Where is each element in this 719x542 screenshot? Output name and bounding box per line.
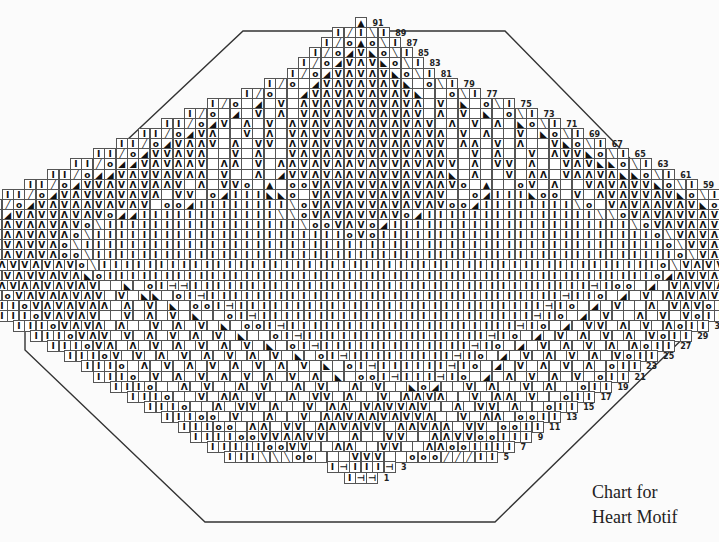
chart-cell: ⊣	[384, 461, 396, 473]
chart-cell: I	[617, 371, 629, 383]
chart-cell: I	[714, 310, 719, 322]
row-number-label: 5	[504, 453, 510, 462]
chart-cell: I	[235, 451, 247, 463]
row-number-label: 3	[401, 463, 407, 472]
chart-cell: ╲	[258, 451, 270, 463]
row-number-label: 15	[583, 403, 594, 412]
chart-cell: I	[344, 472, 356, 484]
chart-cell: I	[13, 320, 25, 332]
chart-cell: I	[190, 431, 202, 443]
chart-cell: I	[697, 320, 709, 332]
chart-cell	[395, 451, 407, 463]
row-number-label: 1	[384, 474, 390, 483]
chart-title-line1: Chart for	[592, 480, 677, 505]
chart-cell: ⊣	[366, 472, 378, 484]
chart-cell: o	[304, 451, 316, 463]
chart-cell	[315, 451, 327, 463]
chart-cell: I	[600, 381, 612, 393]
chart-cell: I	[144, 401, 156, 413]
row-number-label: 19	[618, 383, 629, 392]
row-number-label: 27	[680, 342, 691, 351]
chart-cell: ╲	[270, 451, 282, 463]
chart-cell: ╱	[452, 451, 464, 463]
row-number-label: 29	[697, 332, 708, 341]
chart-cell: I	[110, 381, 122, 393]
chart-cell: I	[503, 441, 515, 453]
chart-cell: I	[680, 330, 692, 342]
chart-cell: I	[486, 451, 498, 463]
chart-cell: I	[161, 411, 173, 423]
chart-cell: I	[549, 411, 561, 423]
chart-cell: I	[178, 421, 190, 433]
chart-cell: I	[247, 451, 259, 463]
chart-cell: I	[475, 451, 487, 463]
chart-cell: ╱	[463, 451, 475, 463]
row-number-label: 25	[663, 352, 674, 361]
chart-title: Chart for Heart Motif	[592, 480, 677, 530]
chart-cell: I	[646, 350, 658, 362]
chart-cell: o	[429, 451, 441, 463]
chart-cell: I	[81, 360, 93, 372]
chart-cell: ╱	[441, 451, 453, 463]
chart-cell: o	[406, 451, 418, 463]
chart-cell: I	[629, 360, 641, 372]
chart-cell: ╲	[281, 451, 293, 463]
row-number-label: 11	[549, 423, 560, 432]
chart-title-line2: Heart Motif	[592, 505, 677, 530]
row-number-label: 17	[600, 393, 611, 402]
chart-cell: I	[520, 431, 532, 443]
chart-cell: I	[127, 391, 139, 403]
chart-cell: I	[663, 340, 675, 352]
row-number-label: 9	[538, 433, 544, 442]
chart-cell: I	[224, 451, 236, 463]
row-number-label: 21	[635, 373, 646, 382]
row-number-label: 23	[646, 362, 657, 371]
chart-cell: I	[207, 441, 219, 453]
row-number-label: 7	[521, 443, 527, 452]
chart-cell: I	[64, 350, 76, 362]
chart-cell: I	[327, 461, 339, 473]
chart-cell: I	[532, 421, 544, 433]
row-number-label: 31	[714, 322, 719, 331]
chart-cell: I	[566, 401, 578, 413]
chart-cell: I	[93, 371, 105, 383]
row-number-label: 13	[566, 413, 577, 422]
chart-cell: I	[30, 330, 42, 342]
chart-cell: I	[47, 340, 59, 352]
chart-cell: I	[583, 391, 595, 403]
chart-cell: o	[418, 451, 430, 463]
chart-cell: ⊣	[355, 472, 367, 484]
chart-cell: o	[292, 451, 304, 463]
